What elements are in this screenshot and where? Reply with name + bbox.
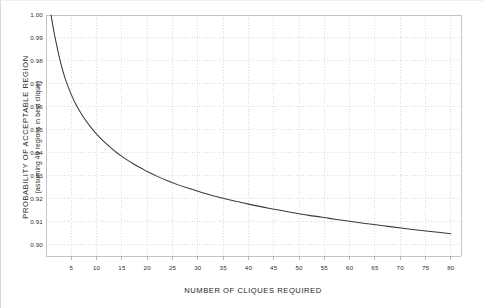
y-tick-label: 0.91 [30, 218, 43, 225]
x-axis-tickmarks [71, 256, 451, 260]
x-tick-label: 10 [93, 264, 101, 271]
x-axis-tick-labels: 5101520253035404550556065707580 [69, 264, 454, 271]
y-tick-label: 0.99 [30, 34, 43, 41]
x-tick-label: 80 [447, 264, 455, 271]
x-tick-label: 30 [194, 264, 202, 271]
y-tick-label: 0.92 [30, 195, 43, 202]
x-tick-label: 65 [371, 264, 379, 271]
x-tick-label: 5 [69, 264, 73, 271]
x-tick-label: 70 [397, 264, 405, 271]
x-tick-label: 75 [422, 264, 430, 271]
y-tick-label: 0.90 [30, 241, 43, 248]
x-tick-label: 15 [118, 264, 126, 271]
x-tick-label: 40 [245, 264, 253, 271]
chart-figure: 1.000.990.980.970.960.950.940.930.920.91… [0, 0, 483, 308]
x-tick-label: 50 [295, 264, 303, 271]
y-axis-subtitle: (assuming 40 regions in best clique) [34, 81, 42, 194]
y-tick-label: 1.00 [30, 11, 43, 18]
y-axis-title: PROBABILITY OF ACCEPTABLE REGION [21, 55, 30, 218]
y-tick-label: 0.98 [30, 57, 43, 64]
x-tick-label: 35 [219, 264, 227, 271]
x-tick-label: 55 [321, 264, 329, 271]
x-tick-label: 45 [270, 264, 278, 271]
x-axis-title: NUMBER OF CLIQUES REQUIRED [184, 286, 322, 295]
plot-background [46, 15, 461, 256]
x-tick-label: 60 [346, 264, 354, 271]
x-tick-label: 25 [169, 264, 177, 271]
line-chart-canvas: 1.000.990.980.970.960.950.940.930.920.91… [1, 1, 483, 308]
x-tick-label: 20 [144, 264, 152, 271]
